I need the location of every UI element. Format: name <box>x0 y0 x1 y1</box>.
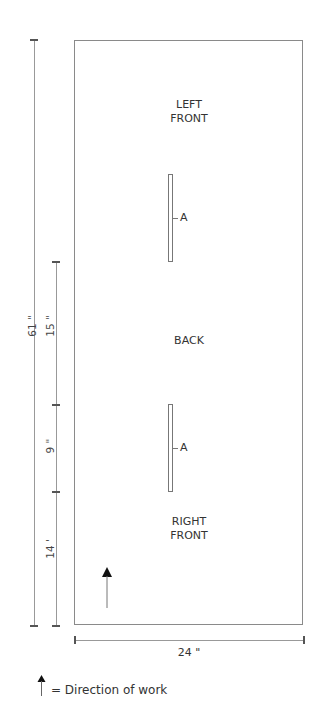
dimension-tick <box>52 625 60 627</box>
arrow-up-icon <box>37 675 46 696</box>
legend-text: = Direction of work <box>51 683 167 697</box>
dimension-tick <box>303 636 305 644</box>
dimension-tick <box>52 491 60 493</box>
segment-middle-label: 9 " <box>44 426 56 466</box>
back-label: BACK <box>149 334 229 348</box>
right-front-label: RIGHT FRONT <box>149 515 229 543</box>
segment-bottom-label: 14 ' <box>44 529 56 569</box>
dimension-tick <box>30 625 38 627</box>
segment-dimension-line <box>56 262 57 626</box>
slit-leader-line <box>173 218 178 219</box>
slit-leader-line <box>173 448 178 449</box>
dimension-tick <box>52 404 60 406</box>
width-dimension-line <box>74 640 304 641</box>
dimension-tick <box>74 636 76 644</box>
slit-label-a: A <box>180 441 188 455</box>
total-height-label: 61 " <box>26 306 38 346</box>
dimension-tick <box>52 261 60 263</box>
width-label: 24 " <box>169 646 209 660</box>
arrow-up-icon <box>101 567 113 609</box>
dimension-tick <box>30 39 38 41</box>
slit-label-a: A <box>180 211 188 225</box>
segment-top-label: 15 " <box>44 306 56 346</box>
left-front-label: LEFT FRONT <box>149 98 229 126</box>
